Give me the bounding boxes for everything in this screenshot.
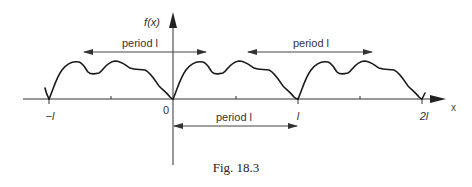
period-label-upper-left: period l — [122, 37, 158, 49]
period-label-upper-right: period l — [293, 37, 329, 49]
x-axis-arrow-icon — [430, 95, 446, 103]
period-label-lower: period l — [216, 111, 252, 123]
y-axis — [169, 12, 177, 165]
y-axis-arrow-icon — [169, 12, 177, 28]
x-axis — [23, 95, 446, 104]
tick-label-l: l — [297, 110, 300, 122]
tick-label-2l: 2l — [419, 110, 429, 122]
function-curve — [45, 61, 425, 99]
y-axis-label: f(x) — [144, 16, 160, 28]
figure-caption: Fig. 18.3 — [0, 160, 472, 176]
tick-label-zero: 0 — [163, 104, 169, 116]
tick-label-minus-l: −l — [46, 110, 55, 122]
x-axis-label: x — [451, 102, 456, 113]
periodic-function-diagram: f(x) x −l 0 l 2l period l period l perio… — [0, 0, 472, 187]
